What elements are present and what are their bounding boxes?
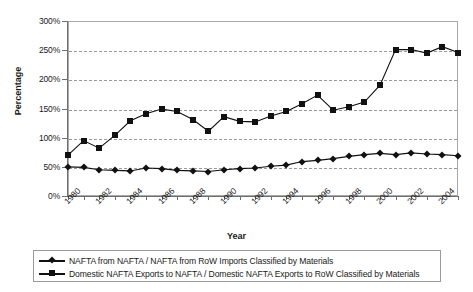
diamond-marker-icon bbox=[39, 255, 65, 266]
data-point bbox=[361, 99, 367, 105]
data-point bbox=[439, 44, 445, 50]
y-axis-tick-label: 150% bbox=[39, 104, 60, 114]
x-axis-tick bbox=[333, 196, 334, 200]
data-point bbox=[112, 132, 118, 138]
data-point bbox=[65, 152, 71, 158]
data-point bbox=[221, 114, 227, 120]
y-axis-tick-label: 50% bbox=[44, 162, 60, 172]
data-point bbox=[127, 118, 133, 124]
data-point bbox=[81, 138, 87, 144]
x-axis-tick bbox=[271, 196, 272, 200]
legend-label-imports: NAFTA from NAFTA / NAFTA from RoW Import… bbox=[69, 256, 333, 266]
x-axis-tick bbox=[364, 196, 365, 200]
data-point bbox=[237, 118, 243, 124]
gridline bbox=[69, 51, 457, 52]
data-point bbox=[96, 145, 102, 151]
x-axis-tick bbox=[240, 196, 241, 200]
y-axis-tick bbox=[62, 138, 68, 139]
y-axis-tick-label: 100% bbox=[39, 133, 60, 143]
x-axis-tick bbox=[115, 196, 116, 200]
y-axis-tick-label: 250% bbox=[39, 45, 60, 55]
data-point bbox=[190, 117, 196, 123]
x-axis-title: Year bbox=[0, 231, 473, 241]
x-axis-tick bbox=[177, 196, 178, 200]
data-point bbox=[377, 82, 383, 88]
y-axis-tick bbox=[62, 50, 68, 51]
x-axis-tick bbox=[302, 196, 303, 200]
y-axis-tick bbox=[62, 79, 68, 80]
data-point bbox=[330, 107, 336, 113]
data-point bbox=[455, 50, 461, 56]
chart-legend: NAFTA from NAFTA / NAFTA from RoW Import… bbox=[33, 250, 441, 282]
y-axis-tick bbox=[62, 21, 68, 22]
x-axis-tick bbox=[396, 196, 397, 200]
data-point bbox=[252, 119, 258, 125]
data-point bbox=[205, 128, 211, 134]
y-axis-tick-label: 200% bbox=[39, 74, 60, 84]
data-point bbox=[268, 113, 274, 119]
y-axis-tick-label: 0% bbox=[48, 191, 60, 201]
x-axis-tick bbox=[427, 196, 428, 200]
x-axis-tick bbox=[146, 196, 147, 200]
legend-item-imports: NAFTA from NAFTA / NAFTA from RoW Import… bbox=[39, 254, 435, 267]
y-axis-tick bbox=[62, 109, 68, 110]
data-point bbox=[159, 106, 165, 112]
x-axis-tick bbox=[84, 196, 85, 200]
data-point bbox=[393, 47, 399, 53]
gridline bbox=[69, 110, 457, 111]
square-marker-icon bbox=[39, 268, 65, 279]
chart-container: Percentage 0%50%100%150%200%250%300% 198… bbox=[0, 0, 473, 292]
x-axis-tick bbox=[458, 196, 459, 200]
legend-item-exports: Domestic NAFTA Exports to NAFTA / Domest… bbox=[39, 267, 435, 280]
data-point bbox=[346, 104, 352, 110]
y-axis-title: Percentage bbox=[13, 56, 23, 126]
legend-label-exports: Domestic NAFTA Exports to NAFTA / Domest… bbox=[69, 269, 419, 279]
data-point bbox=[143, 111, 149, 117]
data-point bbox=[299, 101, 305, 107]
x-axis-tick bbox=[208, 196, 209, 200]
gridline bbox=[69, 139, 457, 140]
gridline bbox=[69, 80, 457, 81]
y-axis-tick-label: 300% bbox=[39, 16, 60, 26]
data-point bbox=[424, 50, 430, 56]
data-point bbox=[174, 108, 180, 114]
data-point bbox=[315, 92, 321, 98]
data-point bbox=[283, 108, 289, 114]
data-point bbox=[408, 47, 414, 53]
